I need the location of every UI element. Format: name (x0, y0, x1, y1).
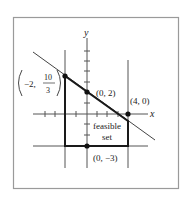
point-label-4-0: (4, 0) (130, 96, 150, 106)
region-label-line2: set (102, 132, 112, 142)
point-label-neg2-10-3: −2, 10 3 (19, 70, 61, 96)
point-0-neg3 (84, 143, 89, 148)
y-axis-label: y (83, 27, 89, 38)
svg-text:−2,: −2, (24, 79, 36, 89)
point-label-0-neg3: (0, −3) (93, 153, 118, 163)
point-0-2 (84, 89, 89, 94)
point-4-0 (125, 111, 130, 116)
feasible-set-diagram: y x (0, 2) (4, 0) (0, −3) −2, 10 3 feasi… (0, 0, 188, 201)
region-label-line1: feasible (93, 121, 121, 131)
point-label-0-2: (0, 2) (96, 88, 116, 98)
point-neg2-10-3 (62, 73, 67, 78)
x-axis-label: x (149, 108, 155, 119)
svg-text:3: 3 (46, 86, 50, 95)
svg-text:10: 10 (44, 73, 52, 82)
